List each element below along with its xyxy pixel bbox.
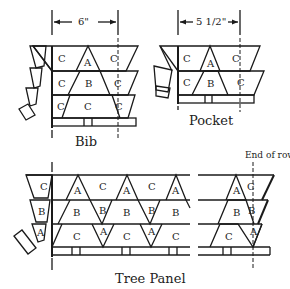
tree-r3-5: C <box>172 231 180 242</box>
tree-panel-caption: Tree Panel <box>115 271 186 286</box>
bib-dimension: 6" <box>78 16 89 27</box>
tree-panel-diagram: End of row C B <box>14 150 290 286</box>
tree-end-r1-1: A <box>232 185 241 196</box>
tree-r3-3: C <box>123 231 131 242</box>
tree-r1-3: A <box>122 185 131 196</box>
tree-side-a: A <box>36 227 45 238</box>
tree-r2-5: B <box>172 207 179 218</box>
tree-r1-5: A <box>171 185 180 196</box>
tree-end-r1-2: C <box>247 181 255 192</box>
tree-r1-4: C <box>148 181 156 192</box>
bib-r1-center: A <box>83 57 92 68</box>
pocket-diagram: 5 1/2" C A C C B C Pocket <box>154 10 264 128</box>
tree-r3-4: A <box>147 226 156 237</box>
tree-end-r2-2: B <box>248 205 255 216</box>
tree-r3-2: A <box>99 226 108 237</box>
bib-r1-left: C <box>58 53 66 64</box>
pocket-r2-right: C <box>237 77 245 88</box>
bib-r3-left: C <box>57 101 65 112</box>
tree-r1-2: C <box>99 181 107 192</box>
tree-r2-2: B <box>99 205 106 216</box>
end-of-row-label: End of row <box>245 150 290 160</box>
pocket-r1-left: C <box>183 53 191 64</box>
bib-r1-right: C <box>110 53 118 64</box>
tree-r3-1: C <box>73 231 81 242</box>
bib-r2-left: C <box>58 78 66 89</box>
pocket-r2-center: B <box>207 78 214 89</box>
tree-side-c: C <box>40 181 48 192</box>
pocket-dimension: 5 1/2" <box>196 16 226 27</box>
pocket-r2-left: C <box>183 77 191 88</box>
tree-side-b: B <box>38 206 45 217</box>
pocket-r1-center: A <box>206 58 215 69</box>
bib-caption: Bib <box>75 134 97 149</box>
tree-r2-3: B <box>123 207 130 218</box>
bib-r3-center: C <box>84 101 92 112</box>
pocket-caption: Pocket <box>189 113 234 128</box>
quilt-diagram: 6" C A C C B C C C C Bib <box>0 0 290 289</box>
tree-r2-1: B <box>73 207 80 218</box>
tree-r1-1: A <box>73 185 82 196</box>
bib-diagram: 6" C A C C B C C C C Bib <box>19 10 138 149</box>
tree-end-r2-1: B <box>233 207 240 218</box>
bib-r3-right: C <box>115 101 123 112</box>
tree-end-r3-2: A <box>249 226 258 237</box>
tree-r2-4: B <box>148 205 155 216</box>
bib-r2-center: B <box>85 78 92 89</box>
pocket-r1-right: C <box>232 53 240 64</box>
bib-r2-right: C <box>114 78 122 89</box>
tree-end-r3-1: C <box>225 231 233 242</box>
